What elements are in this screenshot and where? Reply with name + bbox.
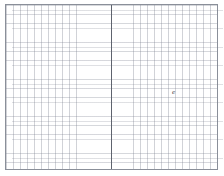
cursor-mark[interactable]: e: [171, 89, 176, 96]
center-fold-divider: [111, 5, 112, 169]
grid-major-lines: [12, 10, 223, 174]
graph-paper-page: e: [0, 0, 224, 176]
